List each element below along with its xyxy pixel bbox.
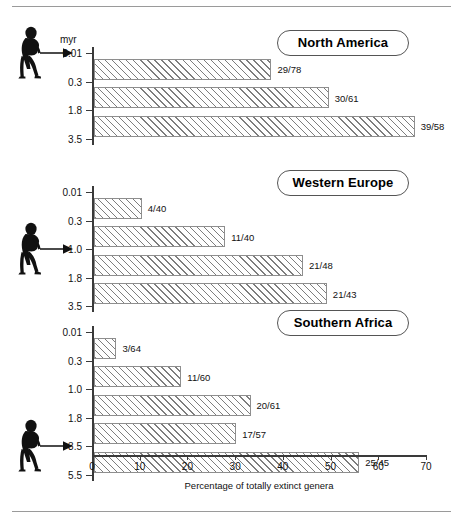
- y-axis-tick: [86, 278, 93, 279]
- x-axis-line: [92, 455, 426, 457]
- bar: [94, 366, 181, 387]
- x-axis-tick: [92, 455, 93, 460]
- x-axis-tick-label: 30: [230, 461, 241, 472]
- x-axis-tick: [331, 455, 332, 460]
- y-axis-tick: [86, 418, 93, 419]
- extinction-chart-figure: myr North America0.01 0.31.83.529/7830/6…: [0, 0, 463, 524]
- x-axis-tick-label: 20: [182, 461, 193, 472]
- right-arrow-icon: [40, 45, 74, 61]
- y-axis-tick: [86, 221, 93, 222]
- y-axis-tick: [86, 446, 93, 447]
- y-axis-tick: [86, 389, 93, 390]
- y-axis-tick-label: 1.8: [42, 105, 82, 116]
- bar-value-label: 11/40: [231, 231, 254, 242]
- bar: [94, 87, 329, 108]
- x-axis-tick: [378, 455, 379, 460]
- y-axis-tick: [86, 192, 93, 193]
- panel-title-southern-africa: Southern Africa: [277, 310, 409, 336]
- bar-value-label: 30/61: [335, 92, 359, 103]
- bar-value-label: 21/43: [333, 288, 357, 299]
- x-axis-tick: [283, 455, 284, 460]
- bar: [94, 116, 415, 137]
- x-axis-tick: [187, 455, 188, 460]
- y-axis-tick-label: 0.01: [42, 187, 82, 198]
- y-axis-tick: [86, 110, 93, 111]
- bar: [94, 59, 271, 80]
- y-axis-tick-label: 0.3: [42, 355, 82, 366]
- bar-value-label: 11/60: [187, 371, 210, 382]
- y-axis-tick-label: 3.5: [42, 301, 82, 312]
- bar-value-label: 21/48: [309, 260, 333, 271]
- x-axis-tick-label: 10: [134, 461, 145, 472]
- y-axis-tick: [86, 332, 93, 333]
- bar-value-label: 3/64: [122, 343, 141, 354]
- bar: [94, 395, 251, 416]
- x-axis-tick: [235, 455, 236, 460]
- bar-value-label: 4/40: [148, 203, 167, 214]
- y-axis-tick: [86, 306, 93, 307]
- bar-value-label: 20/61: [257, 400, 281, 411]
- x-axis-caption: Percentage of totally extinct genera: [92, 480, 426, 491]
- y-axis-tick-label: 1.0: [42, 384, 82, 395]
- x-axis-tick-label: 60: [373, 461, 384, 472]
- y-axis-tick: [86, 53, 93, 54]
- panel-title-western-europe: Western Europe: [277, 170, 409, 196]
- bar: [94, 255, 303, 276]
- bar: [94, 423, 236, 444]
- bar: [94, 198, 142, 219]
- y-axis-tick: [86, 361, 93, 362]
- x-axis-tick-label: 0: [89, 461, 95, 472]
- bar: [94, 338, 116, 359]
- x-axis-tick-label: 50: [325, 461, 336, 472]
- y-axis-tick-label: 0.01: [42, 327, 82, 338]
- bar-value-label: 39/58: [421, 121, 445, 132]
- bar-value-label: 29/78: [277, 64, 301, 75]
- y-axis-tick-label: 0.3: [42, 76, 82, 87]
- y-axis-tick-label: 1.8: [42, 272, 82, 283]
- panel-title-north-america: North America: [277, 30, 409, 56]
- y-axis-tick: [86, 249, 93, 250]
- bar: [94, 226, 225, 247]
- y-axis-tick: [86, 475, 93, 476]
- x-axis-tick-label: 40: [277, 461, 288, 472]
- bottom-divider-rule: [12, 511, 451, 512]
- bar-value-label: 17/57: [242, 428, 266, 439]
- x-axis-tick: [140, 455, 141, 460]
- bar: [94, 283, 327, 304]
- top-divider-rule: [12, 6, 451, 7]
- x-axis-tick-label: 70: [420, 461, 431, 472]
- y-axis-tick: [86, 82, 93, 83]
- right-arrow-icon: [40, 438, 74, 454]
- y-axis-tick-label: 3.5: [42, 133, 82, 144]
- y-axis-tick-label: 5.5: [42, 469, 82, 480]
- right-arrow-icon: [40, 241, 74, 257]
- y-axis-tick: [86, 139, 93, 140]
- x-axis-tick: [426, 455, 427, 460]
